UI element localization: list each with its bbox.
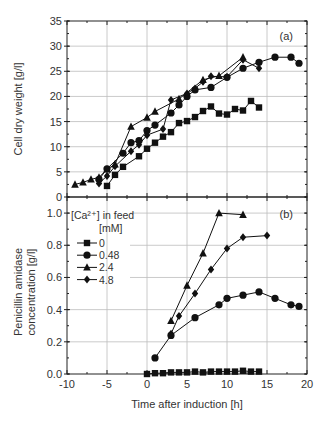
circle-marker [207,84,214,91]
triangle-marker [143,113,151,120]
square-marker [136,153,142,159]
square-marker [152,370,158,376]
square-marker [256,368,262,374]
square-marker [216,110,222,116]
y-tick-label: 20 [50,90,62,102]
square-marker [168,369,174,375]
circle-marker [271,54,278,61]
triangle-marker [167,317,175,324]
panel-a-ylabel: Cell dry weight [g/l] [12,63,24,156]
square-marker [224,111,230,117]
square-marker [232,106,238,112]
triangle-marker [215,72,223,79]
circle-marker [239,65,246,72]
series-0_48 [95,54,302,183]
square-marker [200,108,206,114]
legend-entry: 0 [99,237,105,249]
diamond-marker [84,276,90,284]
circle-marker [83,252,90,259]
square-marker [248,98,254,104]
triangle-marker [215,209,223,216]
square-marker [176,120,182,126]
diamond-marker [208,72,214,80]
square-marker [192,114,198,120]
circle-marker [255,288,262,295]
square-marker [120,164,126,170]
circle-marker [287,54,294,61]
square-marker [216,368,222,374]
y-tick-label: 0 [56,191,62,203]
y-tick-label: 0.6 [47,271,62,283]
series-2_4 [71,53,247,188]
square-marker [184,369,190,375]
square-marker [176,369,182,375]
x-tick-label: 0 [144,378,150,390]
square-marker [224,368,230,374]
square-marker [200,369,206,375]
circle-marker [295,303,302,310]
y-tick-label: 30 [50,40,62,52]
triangle-marker [151,107,159,114]
circle-marker [215,301,222,308]
panel-b-label: (b) [280,208,293,220]
square-marker [144,146,150,152]
triangle-marker [199,249,207,256]
square-marker [256,104,262,110]
circle-marker [127,139,134,146]
panel-b-ylabel-line2: concentration [g/l] [25,249,37,336]
circle-marker [295,60,302,67]
circle-marker [175,101,182,108]
y-tick-label: 1.0 [47,207,62,219]
x-tick-label: 5 [184,378,190,390]
legend-entry: 2.4 [99,261,114,273]
x-tick-label: 10 [221,378,233,390]
y-tick-label: 25 [50,65,62,77]
diamond-marker [264,232,270,240]
x-axis-label: Time after induction [h] [131,398,242,410]
x-tick-label: -5 [102,378,112,390]
square-marker [240,107,246,113]
square-marker [184,118,190,124]
circle-marker [287,301,294,308]
legend-unit: [mM] [99,222,122,234]
series-0 [144,368,262,378]
square-marker [144,371,150,377]
square-marker [84,240,90,246]
y-tick-label: 0.2 [47,336,62,348]
square-marker [192,368,198,374]
diamond-marker [128,147,134,155]
series-4_8 [168,232,270,338]
x-tick-label: -10 [59,378,75,390]
square-marker [208,103,214,109]
circle-marker [151,354,158,361]
circle-marker [191,314,198,321]
y-tick-label: 0.8 [47,239,62,251]
y-tick-label: 35 [50,15,62,27]
circle-marker [151,121,158,128]
square-marker [152,139,158,145]
diamond-marker [168,96,174,104]
square-marker [112,172,118,178]
panel-a-cell-dry-weight: 05101520253035 [50,15,307,203]
panel-a-label: (a) [280,30,293,42]
legend-entry: 4.8 [99,274,114,286]
square-marker [160,133,166,139]
square-marker [160,370,166,376]
y-tick-label: 15 [50,116,62,128]
diamond-marker [160,125,166,133]
square-marker [240,368,246,374]
x-tick-label: 15 [261,378,273,390]
legend: [Ca²⁺] in feed[mM]00.482.44.8 [71,209,134,286]
square-marker [104,183,110,189]
grid [67,21,307,197]
triangle-marker [183,281,191,288]
y-tick-label: 5 [56,166,62,178]
panel-b-penicillin-amidase: 0.00.20.40.60.81.0-10-505101520 [47,197,313,390]
y-tick-label: 0.4 [47,304,62,316]
square-marker [168,129,174,135]
triangle-marker [127,122,135,129]
x-tick-label: 20 [301,378,313,390]
circle-marker [223,295,230,302]
square-marker [248,368,254,374]
legend-title: [Ca²⁺] in feed [71,209,134,221]
